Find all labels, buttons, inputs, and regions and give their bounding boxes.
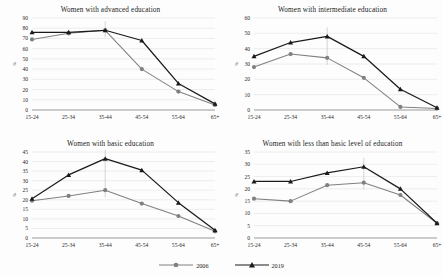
chart-panel-intermediate-education: Women with intermediate education 010203…: [222, 4, 443, 130]
svg-text:0: 0: [25, 235, 28, 241]
svg-text:35-44: 35-44: [99, 242, 112, 248]
svg-text:30: 30: [244, 61, 250, 67]
svg-text:%: %: [12, 193, 17, 197]
svg-text:65+: 65+: [433, 114, 442, 120]
svg-text:20: 20: [22, 87, 28, 93]
legend-marker-circle-icon: [159, 260, 193, 270]
svg-text:0: 0: [247, 235, 250, 241]
svg-text:65+: 65+: [211, 242, 220, 248]
svg-text:35-44: 35-44: [321, 114, 334, 120]
plot-area: 051015202530354045%15-2425-3435-4445-545…: [0, 138, 221, 258]
plot-area: 0102030405060708090%15-2425-3435-4445-54…: [0, 4, 221, 130]
svg-text:15: 15: [244, 198, 250, 204]
svg-text:10: 10: [22, 97, 28, 103]
svg-text:10: 10: [244, 210, 250, 216]
svg-text:65+: 65+: [211, 114, 220, 120]
svg-text:70: 70: [22, 35, 28, 41]
plot-area: 05101520253035%15-2425-3435-4445-5455-64…: [222, 138, 443, 258]
svg-text:50: 50: [244, 30, 250, 36]
svg-text:10: 10: [244, 92, 250, 98]
svg-text:25-34: 25-34: [62, 114, 75, 120]
svg-text:0: 0: [247, 107, 250, 113]
svg-text:30: 30: [244, 161, 250, 167]
svg-text:35: 35: [22, 168, 28, 174]
svg-text:%: %: [12, 62, 17, 66]
svg-text:0: 0: [25, 107, 28, 113]
svg-text:55-64: 55-64: [172, 114, 185, 120]
multi-panel-line-chart-figure: Women with advanced education 0102030405…: [0, 0, 443, 277]
svg-text:55-64: 55-64: [172, 242, 185, 248]
svg-text:20: 20: [22, 197, 28, 203]
svg-text:30: 30: [22, 178, 28, 184]
svg-text:55-64: 55-64: [394, 114, 407, 120]
svg-text:60: 60: [244, 15, 250, 21]
svg-text:50: 50: [22, 56, 28, 62]
svg-text:65+: 65+: [433, 242, 442, 248]
svg-text:80: 80: [22, 25, 28, 31]
svg-text:20: 20: [244, 186, 250, 192]
legend-marker-triangle-icon: [235, 260, 269, 270]
svg-text:15-24: 15-24: [247, 242, 260, 248]
svg-text:45-54: 45-54: [357, 114, 370, 120]
svg-text:45-54: 45-54: [135, 114, 148, 120]
chart-panel-basic-education: Women with basic education 0510152025303…: [0, 138, 221, 264]
chart-panel-less-than-basic-education: Women with less than basic level of educ…: [222, 138, 443, 264]
plot-area: 0102030405060%15-2425-3435-4445-5455-646…: [222, 4, 443, 130]
svg-text:%: %: [234, 62, 239, 66]
svg-text:35-44: 35-44: [321, 242, 334, 248]
svg-text:60: 60: [22, 46, 28, 52]
svg-text:55-64: 55-64: [394, 242, 407, 248]
svg-text:90: 90: [22, 15, 28, 21]
svg-text:25: 25: [244, 174, 250, 180]
svg-text:40: 40: [244, 46, 250, 52]
chart-panel-advanced-education: Women with advanced education 0102030405…: [0, 4, 221, 130]
svg-text:25-34: 25-34: [284, 242, 297, 248]
svg-text:%: %: [234, 193, 239, 197]
legend-item-2006: 2006: [159, 260, 208, 270]
svg-text:45: 45: [22, 149, 28, 155]
svg-text:45-54: 45-54: [357, 242, 370, 248]
svg-text:40: 40: [22, 159, 28, 165]
svg-text:40: 40: [22, 66, 28, 72]
legend-label: 2019: [272, 262, 284, 269]
svg-text:15-24: 15-24: [247, 114, 260, 120]
svg-text:20: 20: [244, 76, 250, 82]
svg-text:35: 35: [244, 149, 250, 155]
svg-text:45-54: 45-54: [135, 242, 148, 248]
svg-text:5: 5: [25, 225, 28, 231]
legend-item-2019: 2019: [235, 260, 284, 270]
svg-text:25: 25: [22, 187, 28, 193]
svg-text:15-24: 15-24: [25, 242, 38, 248]
svg-text:30: 30: [22, 76, 28, 82]
chart-legend: 2006 2019: [0, 255, 443, 275]
svg-text:25-34: 25-34: [284, 114, 297, 120]
svg-text:15-24: 15-24: [25, 114, 38, 120]
svg-text:5: 5: [247, 223, 250, 229]
legend-label: 2006: [196, 262, 208, 269]
svg-text:10: 10: [22, 216, 28, 222]
svg-text:35-44: 35-44: [99, 114, 112, 120]
svg-text:25-34: 25-34: [62, 242, 75, 248]
svg-text:15: 15: [22, 206, 28, 212]
